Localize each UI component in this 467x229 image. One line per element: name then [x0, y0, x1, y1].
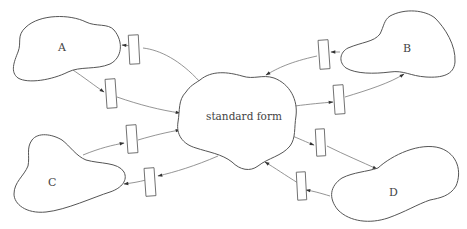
edge-box-to-center-c [138, 130, 180, 140]
node-standard-form: standard form [178, 73, 297, 170]
box-d-to-center [296, 172, 306, 200]
node-b: B [341, 11, 455, 77]
node-c-label: C [48, 176, 56, 189]
diagram-canvas: A B C D standard form [0, 0, 467, 229]
edge-center-to-box-c [158, 156, 218, 176]
edge-box-to-d [327, 146, 377, 169]
node-a-label: A [57, 41, 67, 54]
edge-box-to-center [117, 97, 180, 113]
edge-a-to-box [70, 68, 104, 92]
node-b-label: B [403, 42, 411, 55]
diagram-svg: A B C D standard form [0, 0, 467, 229]
box-center-to-a [128, 35, 140, 64]
edge-center-to-a [143, 48, 200, 82]
node-b-outline [341, 11, 455, 77]
box-center-to-b [333, 85, 345, 115]
box-center-to-c [144, 168, 156, 197]
box-c-to-center [126, 125, 138, 154]
box-b-to-center [318, 40, 330, 70]
edge-box-to-center-b [266, 56, 317, 75]
node-d-label: D [389, 186, 398, 199]
edge-box-to-center-d [265, 162, 298, 183]
node-d: D [332, 146, 459, 221]
node-d-outline [332, 146, 459, 221]
standard-form-label: standard form [206, 110, 282, 122]
edge-d-to-box [306, 190, 330, 196]
node-a-outline [13, 17, 120, 81]
node-a: A [13, 17, 120, 81]
edge-box-to-c [124, 180, 146, 184]
edge-box-to-b [345, 74, 404, 97]
box-center-to-d [315, 129, 325, 156]
edge-c-to-box [83, 143, 124, 155]
box-a-to-center [105, 79, 117, 109]
edge-center-to-box-b [295, 102, 333, 106]
